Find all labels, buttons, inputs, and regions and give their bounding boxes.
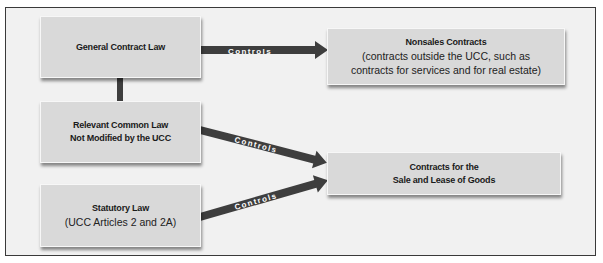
node-nonsales-contracts: Nonsales Contracts (contracts outside th…: [327, 28, 565, 85]
arrow-common-to-sale: Controls: [198, 121, 329, 171]
node-title-line1: Relevant Common Law: [73, 119, 168, 132]
node-statutory-law: Statutory Law (UCC Articles 2 and 2A): [40, 184, 201, 247]
node-sale-lease-goods: Contracts for the Sale and Lease of Good…: [327, 152, 561, 195]
node-subtitle-line2: contracts for services and for real esta…: [351, 63, 541, 77]
arrow-label: Controls: [228, 47, 272, 56]
node-title: Statutory Law: [92, 202, 149, 215]
node-title: Nonsales Contracts: [406, 36, 487, 49]
node-subtitle-line1: (contracts outside the UCC, such as: [362, 49, 530, 63]
node-general-contract-law: General Contract Law: [40, 16, 201, 78]
node-title-line2: Not Modified by the UCC: [70, 132, 171, 145]
node-title-line2: Sale and Lease of Goods: [393, 174, 495, 187]
arrow-statutory-to-sale: Controls: [198, 172, 331, 226]
arrow-label: Controls: [234, 135, 279, 155]
node-subtitle: (UCC Articles 2 and 2A): [65, 215, 176, 229]
arrow-general-to-nonsales: Controls: [200, 41, 328, 59]
node-title-line1: Contracts for the: [409, 161, 478, 174]
node-title: General Contract Law: [76, 41, 165, 54]
connector-general-to-common: [117, 78, 123, 102]
node-relevant-common-law: Relevant Common Law Not Modified by the …: [40, 101, 201, 163]
arrow-label: Controls: [234, 191, 279, 212]
